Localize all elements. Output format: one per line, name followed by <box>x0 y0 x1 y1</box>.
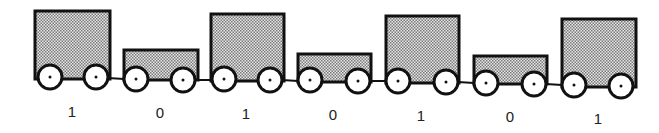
cart-5 <box>386 16 459 94</box>
cart-7 <box>562 19 636 98</box>
cart-label-5: 1 <box>417 107 425 124</box>
cart-6 <box>474 56 547 96</box>
cart-label-6: 0 <box>506 108 514 125</box>
cart-1 <box>35 11 110 89</box>
cart-3 <box>211 14 284 92</box>
cart-label-7: 1 <box>594 110 602 127</box>
cart-2 <box>124 50 198 92</box>
cart-label-4: 0 <box>329 106 337 123</box>
cart-label-1: 1 <box>68 103 76 120</box>
cart-4 <box>298 54 371 93</box>
train-diagram: 1 0 1 0 1 0 1 <box>0 0 659 133</box>
cart-label-3: 1 <box>242 105 250 122</box>
cart-label-2: 0 <box>156 104 164 121</box>
